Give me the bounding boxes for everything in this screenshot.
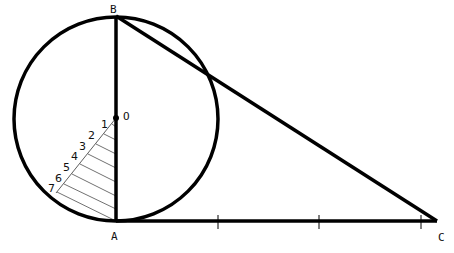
label-O: O [123,110,130,123]
svg-text:6: 6 [55,172,62,185]
hatch-numbers: 1 2 3 4 5 6 7 [48,118,108,195]
segment-BC [116,16,437,221]
svg-text:1: 1 [101,118,108,131]
geometry-diagram: B O A C 1 2 3 4 5 6 7 [0,0,454,253]
label-C: C [438,231,445,244]
label-B: B [110,3,117,16]
center-point-O [113,115,119,121]
svg-text:3: 3 [79,140,86,153]
label-A: A [111,230,118,243]
svg-text:4: 4 [71,150,78,163]
svg-text:5: 5 [63,161,70,174]
svg-text:2: 2 [88,129,95,142]
svg-text:7: 7 [48,182,55,195]
